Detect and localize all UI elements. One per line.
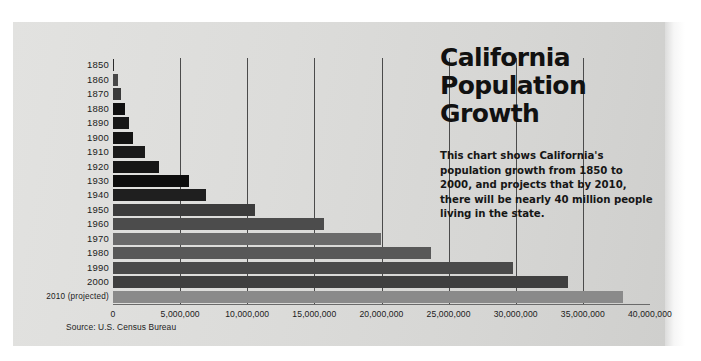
bar-1990	[113, 262, 513, 274]
bar-1920	[113, 161, 159, 173]
panel-shadow	[665, 22, 685, 346]
y-label-2010: 2010 (projected)	[9, 291, 109, 303]
y-axis-labels: 1850186018701880189019001910192019301940…	[4, 58, 109, 304]
x-axis-line	[113, 304, 650, 305]
bar-2010	[113, 291, 623, 303]
y-label-1860: 1860	[9, 74, 109, 86]
y-label-1950: 1950	[9, 204, 109, 216]
y-label-1970: 1970	[9, 233, 109, 245]
bar-1970	[113, 233, 381, 245]
y-label-1910: 1910	[9, 146, 109, 158]
x-axis-labels: 05,000,00010,000,00015,000,00020,000,000…	[0, 309, 701, 323]
y-label-1850: 1850	[9, 59, 109, 71]
title-line-1: Population	[440, 72, 665, 100]
description-text: This chart shows California's population…	[440, 149, 658, 222]
chart-poster: 1850186018701880189019001910192019301940…	[0, 0, 701, 361]
bar-row	[113, 247, 650, 259]
x-label-5000000: 5,000,000	[161, 309, 200, 319]
bar-2000	[113, 276, 568, 288]
x-label-35000000: 35,000,000	[561, 309, 605, 319]
title-line-0: California	[440, 44, 665, 72]
x-label-10000000: 10,000,000	[225, 309, 269, 319]
bar-1930	[113, 175, 189, 187]
bar-row	[113, 276, 650, 288]
bar-1900	[113, 132, 133, 144]
y-label-1990: 1990	[9, 262, 109, 274]
bar-1870	[113, 88, 121, 100]
y-label-1940: 1940	[9, 189, 109, 201]
y-label-1870: 1870	[9, 88, 109, 100]
title-line-2: Growth	[440, 100, 665, 128]
bar-row	[113, 233, 650, 245]
y-label-1980: 1980	[9, 247, 109, 259]
bar-1910	[113, 146, 145, 158]
bar-1890	[113, 117, 129, 129]
y-label-1900: 1900	[9, 132, 109, 144]
x-label-30000000: 30,000,000	[494, 309, 538, 319]
x-label-25000000: 25,000,000	[427, 309, 471, 319]
y-label-1920: 1920	[9, 161, 109, 173]
bar-1950	[113, 204, 255, 216]
y-label-2000: 2000	[9, 276, 109, 288]
x-label-40000000: 40,000,000	[628, 309, 672, 319]
y-label-1880: 1880	[9, 103, 109, 115]
source-note: Source: U.S. Census Bureau	[66, 322, 176, 332]
bar-1960	[113, 218, 324, 230]
x-label-0: 0	[111, 309, 116, 319]
x-label-20000000: 20,000,000	[359, 309, 403, 319]
bar-row	[113, 262, 650, 274]
y-label-1930: 1930	[9, 175, 109, 187]
bar-1850	[113, 59, 114, 71]
bar-1940	[113, 189, 206, 201]
y-label-1960: 1960	[9, 218, 109, 230]
page-title: CaliforniaPopulationGrowth	[440, 44, 665, 128]
bar-1860	[113, 74, 118, 86]
bar-1980	[113, 247, 431, 259]
bar-row	[113, 291, 650, 303]
bar-row	[113, 132, 650, 144]
bar-1880	[113, 103, 125, 115]
y-label-1890: 1890	[9, 117, 109, 129]
x-label-15000000: 15,000,000	[292, 309, 336, 319]
